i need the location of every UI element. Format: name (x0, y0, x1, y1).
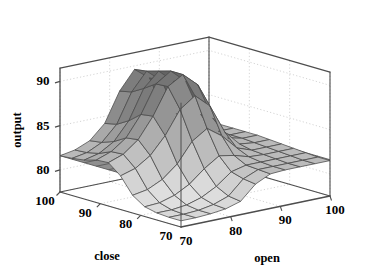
close-tick-label: 100 (35, 193, 55, 209)
z-tick-label: 90 (37, 73, 50, 89)
z-tick-label: 85 (37, 118, 50, 134)
close-tick-label: 70 (160, 228, 173, 244)
close-tick-label: 90 (79, 205, 92, 221)
surface-plot-figure: 808590708090100100908070outputcloseopen (0, 0, 369, 278)
open-tick-label: 100 (325, 202, 345, 218)
open-tick-label: 90 (279, 212, 292, 228)
open-tick-label: 80 (229, 223, 242, 239)
axis-title-close: close (94, 249, 120, 264)
close-tick-label: 80 (119, 216, 132, 232)
z-tick-label: 80 (37, 162, 50, 178)
open-tick-label: 70 (180, 233, 193, 249)
axis-label-layer: 808590708090100100908070outputcloseopen (0, 0, 369, 278)
axis-title-open: open (254, 251, 280, 266)
axis-title-output: output (10, 112, 25, 147)
